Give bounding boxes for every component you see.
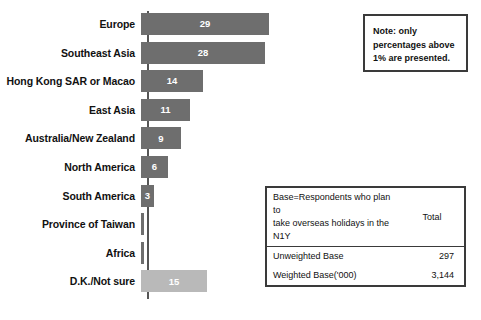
bar-row: South America 3 (0, 184, 300, 208)
bar-value-label: 9 (158, 134, 163, 144)
bar-category-label: North America (0, 161, 141, 173)
base-total-header: Total (400, 188, 464, 247)
bar-value-label: 29 (200, 19, 211, 29)
bar-category-label: Europe (0, 18, 141, 30)
weighted-base-label: Weighted Base('000) (267, 266, 400, 285)
bar-row: Province of Taiwan (0, 212, 300, 236)
bar-value-label: 14 (167, 76, 178, 86)
bar-category-label: Province of Taiwan (0, 218, 141, 230)
bar-category-label: Africa (0, 247, 141, 259)
bar-track: 6 (141, 155, 300, 179)
base-description-line1: Base=Respondents who plan to (273, 191, 394, 217)
bar-track: 29 (141, 12, 300, 36)
bar-row: Southeast Asia 28 (0, 41, 300, 65)
bar-row: Hong Kong SAR or Macao 14 (0, 69, 300, 93)
bar-africa[interactable] (141, 242, 144, 264)
bar-category-label: South America (0, 190, 141, 202)
note-line-2: percentages above (373, 39, 466, 53)
base-description-line2: take overseas holidays in the N1Y (273, 217, 394, 243)
weighted-base-value: 3,144 (400, 266, 464, 285)
bar-row: North America 6 (0, 155, 300, 179)
bar-value-label: 28 (198, 48, 209, 58)
bar-track: 11 (141, 98, 300, 122)
bar-track: 14 (141, 69, 300, 93)
bar-province-of-taiwan[interactable] (141, 213, 144, 235)
bar-row: East Asia 11 (0, 98, 300, 122)
bar-value-label: 11 (160, 105, 170, 115)
chart-page: Europe 29 Southeast Asia 28 Hong Kong SA… (0, 0, 481, 320)
bar-row: Africa (0, 241, 300, 265)
unweighted-base-value: 297 (400, 247, 464, 267)
base-description-cell: Base=Respondents who plan to take overse… (267, 188, 400, 247)
bar-category-label: East Asia (0, 104, 141, 116)
bar-category-label: Hong Kong SAR or Macao (0, 75, 141, 87)
bar-category-label: D.K./Not sure (0, 275, 141, 287)
bar-chart: Europe 29 Southeast Asia 28 Hong Kong SA… (0, 0, 300, 320)
bar-hong-kong-sar-or-macao[interactable]: 14 (141, 70, 203, 92)
bar-row: Europe 29 (0, 12, 300, 36)
bar-track: 28 (141, 41, 300, 65)
note-line-3: 1% are presented. (373, 52, 466, 66)
note-line-1: Note: only (373, 25, 466, 39)
bar-category-label: Southeast Asia (0, 47, 141, 59)
note-box: Note: only percentages above 1% are pres… (363, 14, 468, 72)
bar-europe[interactable]: 29 (141, 13, 269, 35)
bar-track: 9 (141, 126, 300, 150)
bar-east-asia[interactable]: 11 (141, 99, 190, 121)
table-header-row: Base=Respondents who plan to take overse… (267, 188, 464, 247)
unweighted-base-label: Unweighted Base (267, 247, 400, 267)
bar-row: Australia/New Zealand 9 (0, 126, 300, 150)
bar-dk-not-sure[interactable]: 15 (141, 270, 207, 292)
bar-north-america[interactable]: 6 (141, 156, 168, 178)
bar-value-label: 15 (169, 277, 180, 287)
base-table-grid: Base=Respondents who plan to take overse… (267, 188, 464, 285)
bar-value-label: 6 (152, 162, 157, 172)
bar-south-america[interactable]: 3 (141, 185, 154, 207)
bar-category-label: Australia/New Zealand (0, 132, 141, 144)
table-row: Unweighted Base 297 (267, 247, 464, 267)
bar-row: D.K./Not sure 15 (0, 269, 300, 293)
table-row: Weighted Base('000) 3,144 (267, 266, 464, 285)
bar-value-label: 3 (145, 191, 150, 201)
bar-australia-new-zealand[interactable]: 9 (141, 127, 181, 149)
bar-southeast-asia[interactable]: 28 (141, 42, 265, 64)
base-table: Base=Respondents who plan to take overse… (265, 186, 466, 287)
